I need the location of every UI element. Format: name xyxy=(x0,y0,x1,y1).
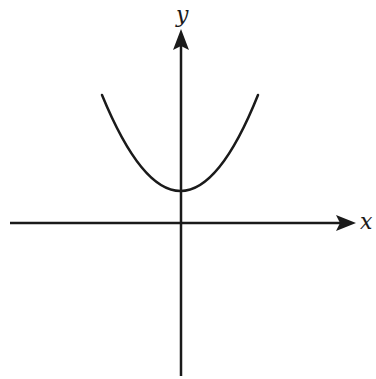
x-axis-label: x xyxy=(360,209,373,234)
y-axis-label: y xyxy=(175,2,189,27)
chart-plot-area: x y xyxy=(0,0,376,379)
